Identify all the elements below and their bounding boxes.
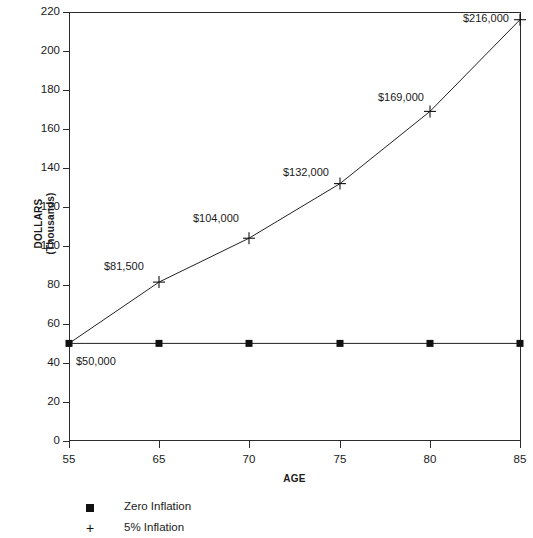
series-line-five-percent-inflation: [69, 20, 520, 344]
point-label-five-percent-104000: $104,000: [193, 213, 239, 224]
series-layer: [0, 0, 533, 538]
point-label-zero-inflation-50000: $50,000: [76, 356, 116, 367]
legend-square-marker-icon: [78, 498, 102, 514]
legend-item-zero-inflation: Zero Inflation: [78, 498, 318, 519]
legend-plus-marker-icon: +: [78, 519, 102, 535]
legend-item-five-percent-inflation: + 5% Inflation: [78, 519, 318, 538]
point-label-five-percent-216000: $216,000: [463, 13, 509, 24]
point-label-five-percent-81500: $81,500: [104, 261, 144, 272]
series-markers-five-percent-inflation: [153, 14, 526, 288]
legend-label-zero-inflation: Zero Inflation: [124, 498, 191, 514]
chart-container: 220 200 180 160 140 120 100 80 60 40 20 …: [0, 0, 533, 538]
point-label-five-percent-169000: $169,000: [378, 92, 424, 103]
chart-legend: Zero Inflation + 5% Inflation: [78, 498, 318, 538]
legend-label-five-percent-inflation: 5% Inflation: [124, 519, 184, 535]
point-label-five-percent-132000: $132,000: [283, 167, 329, 178]
